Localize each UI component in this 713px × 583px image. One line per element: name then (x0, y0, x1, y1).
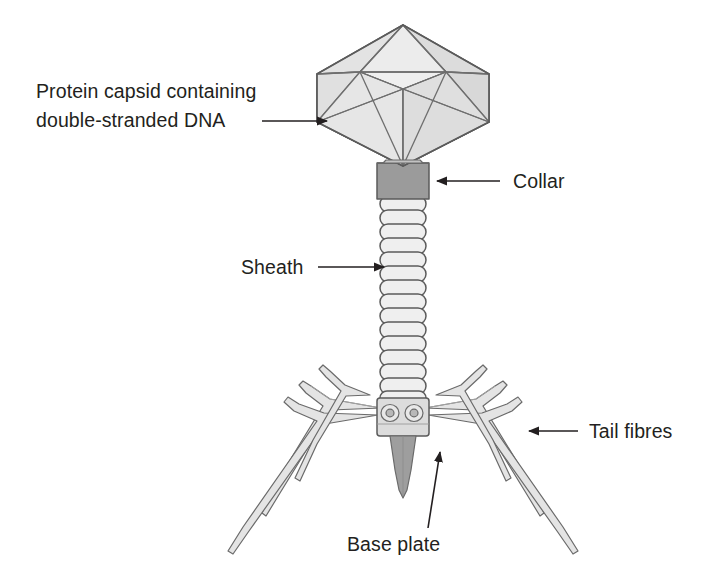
sheath-group (380, 196, 426, 405)
bacteriophage-illustration: Protein capsid containing double-strande… (0, 0, 713, 583)
label-base-plate-text: Base plate (347, 533, 440, 555)
label-sheath-text: Sheath (241, 256, 303, 278)
label-tail-fibres-text: Tail fibres (589, 420, 673, 442)
collar-part (377, 163, 429, 199)
phage-diagram: Protein capsid containing double-strande… (0, 0, 713, 583)
label-collar-text: Collar (513, 170, 565, 192)
base-plate-part (377, 398, 429, 436)
label-capsid-line2: double-stranded DNA (36, 109, 225, 131)
label-capsid-line1: Protein capsid containing (36, 80, 256, 102)
